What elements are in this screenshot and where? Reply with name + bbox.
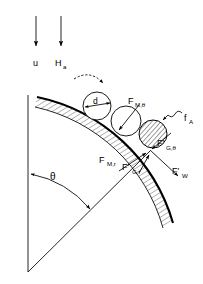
field-label-subscript: a: [63, 63, 67, 70]
force-drag-subscript: W: [182, 172, 188, 179]
force-gravity-tangential-label: F′: [157, 138, 164, 148]
inlet-flow-arrows: u H a: [33, 16, 67, 70]
field-label: H: [55, 58, 62, 68]
force-gravity-tangential-subscript: G,θ: [166, 144, 177, 151]
velocity-label: u: [33, 58, 38, 68]
force-magnetic-radial-subscript: M,r: [107, 160, 116, 167]
force-gravity-radial-subscript: G,r: [132, 168, 141, 175]
particle-motion-arrow: [74, 75, 103, 83]
diameter-label: d: [93, 96, 98, 106]
force-diagram: u H a θ: [0, 0, 203, 284]
angle-label: θ: [50, 171, 56, 182]
force-gravity-radial-label: F′: [122, 162, 129, 172]
angle-arc-arrow: θ: [31, 171, 90, 209]
force-magnetic-radial-label: F: [99, 155, 105, 165]
force-magnetic-tangential-subscript: M,θ: [135, 101, 146, 108]
force-magnetic-tangential-label: F: [128, 96, 134, 106]
adhesion-subscript: A: [189, 118, 194, 125]
adhesion-leader-squiggle: f A: [163, 111, 194, 125]
force-drag-label: F′: [172, 166, 179, 176]
force-drag: F′ W: [150, 150, 188, 179]
figure-root: u H a θ: [0, 0, 203, 284]
adhesion-label: f: [184, 113, 187, 123]
